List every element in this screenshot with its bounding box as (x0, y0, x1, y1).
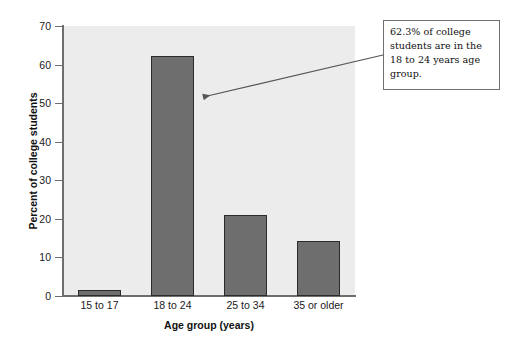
annotation-text: 62.3% of college students are in the 18 … (390, 26, 482, 79)
x-axis-title: Age group (years) (63, 319, 355, 331)
y-axis-tick (55, 180, 62, 181)
bar-chart-figure: 010203040506070 15 to 1718 to 2425 to 34… (0, 0, 515, 349)
x-axis-tick-labels: 15 to 1718 to 2425 to 3435 or older (63, 300, 355, 316)
y-axis-tick (55, 26, 62, 27)
bar (151, 56, 193, 296)
x-axis-tick-label: 18 to 24 (136, 300, 209, 312)
x-axis-tick-label: 25 to 34 (209, 300, 282, 312)
y-axis-tick (55, 296, 62, 297)
x-axis-tick-label: 15 to 17 (63, 300, 136, 312)
annotation-callout-box: 62.3% of college students are in the 18 … (383, 20, 500, 90)
y-axis-tick-label: 0 (7, 291, 51, 302)
y-axis-tick-label: 10 (7, 252, 51, 263)
bar (224, 215, 266, 296)
y-axis-tick (55, 103, 62, 104)
y-axis-tick (55, 219, 62, 220)
y-axis-tick (55, 65, 62, 66)
y-axis-title: Percent of college students (27, 86, 39, 236)
y-axis-tick (55, 257, 62, 258)
bar (78, 290, 120, 296)
y-axis-tick (55, 142, 62, 143)
y-axis-tick-label: 70 (7, 21, 51, 32)
x-axis-tick-label: 35 or older (282, 300, 355, 312)
bars-layer (63, 26, 355, 296)
y-axis-tick-label: 60 (7, 60, 51, 71)
bar (297, 241, 339, 296)
